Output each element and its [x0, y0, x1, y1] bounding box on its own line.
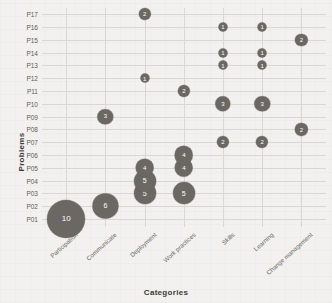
- y-axis-tick-label: P08: [6, 126, 38, 133]
- x-axis-title: Categories: [0, 288, 332, 297]
- data-point-bubble[interactable]: 1: [258, 61, 267, 70]
- y-axis-tick-label: P15: [6, 36, 38, 43]
- data-point-bubble[interactable]: 2: [295, 34, 307, 46]
- gridline-vertical: [223, 8, 224, 227]
- data-point-bubble[interactable]: 1: [218, 22, 227, 31]
- data-point-bubble[interactable]: 1: [258, 48, 267, 57]
- bubble-chart: Problems Categories P01P02P03P04P05P06P0…: [0, 0, 332, 303]
- y-axis-tick-label: P10: [6, 100, 38, 107]
- data-point-bubble[interactable]: 3: [215, 96, 230, 111]
- data-point-bubble[interactable]: 2: [256, 136, 268, 148]
- y-axis-tick-label: P12: [6, 75, 38, 82]
- x-axis-tick-label: Learning: [252, 231, 275, 252]
- x-axis-tick-label: Deployment: [128, 231, 157, 258]
- x-axis-tick-label: Skills: [220, 231, 235, 246]
- plot-area: P01P02P03P04P05P06P07P08P09P10P11P12P13P…: [42, 8, 326, 227]
- data-point-bubble[interactable]: 4: [174, 146, 193, 165]
- y-axis-tick-label: P13: [6, 62, 38, 69]
- data-point-bubble[interactable]: 1: [218, 48, 227, 57]
- x-axis-tick-label: Work practices: [161, 231, 196, 264]
- data-point-bubble[interactable]: 1: [218, 61, 227, 70]
- gridline-vertical: [262, 8, 263, 227]
- y-axis-tick-label: P07: [6, 139, 38, 146]
- y-axis-tick-label: P02: [6, 203, 38, 210]
- y-axis-tick-label: P11: [6, 87, 38, 94]
- data-point-bubble[interactable]: 6: [93, 194, 118, 219]
- y-axis-tick-label: P01: [6, 216, 38, 223]
- data-point-bubble[interactable]: 10: [47, 200, 85, 238]
- y-axis-tick-label: P14: [6, 49, 38, 56]
- data-point-bubble[interactable]: 2: [139, 8, 151, 20]
- y-axis-tick-label: P06: [6, 152, 38, 159]
- y-axis-tick-label: P04: [6, 177, 38, 184]
- data-point-bubble[interactable]: 4: [135, 159, 154, 178]
- data-point-bubble[interactable]: 2: [295, 123, 307, 135]
- data-point-bubble[interactable]: 3: [254, 96, 269, 111]
- y-axis-tick-label: P17: [6, 11, 38, 18]
- y-axis-tick-label: P09: [6, 113, 38, 120]
- data-point-bubble[interactable]: 2: [217, 136, 229, 148]
- y-axis-tick-label: P03: [6, 190, 38, 197]
- data-point-bubble[interactable]: 2: [178, 85, 190, 97]
- data-point-bubble[interactable]: 1: [140, 74, 149, 83]
- gridline-vertical: [66, 8, 67, 227]
- data-point-bubble[interactable]: 5: [173, 183, 195, 205]
- y-axis-tick-label: P05: [6, 164, 38, 171]
- x-axis-tick-label: Communicate: [85, 231, 118, 262]
- data-point-bubble[interactable]: 1: [258, 22, 267, 31]
- data-point-bubble[interactable]: 3: [98, 109, 113, 124]
- y-axis-tick-label: P16: [6, 23, 38, 30]
